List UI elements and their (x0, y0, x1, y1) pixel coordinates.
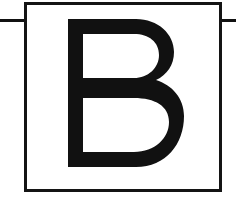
letter-specimen-canvas (0, 0, 236, 199)
glyph-stage (24, 2, 222, 192)
letter-b-glyph (24, 2, 222, 192)
